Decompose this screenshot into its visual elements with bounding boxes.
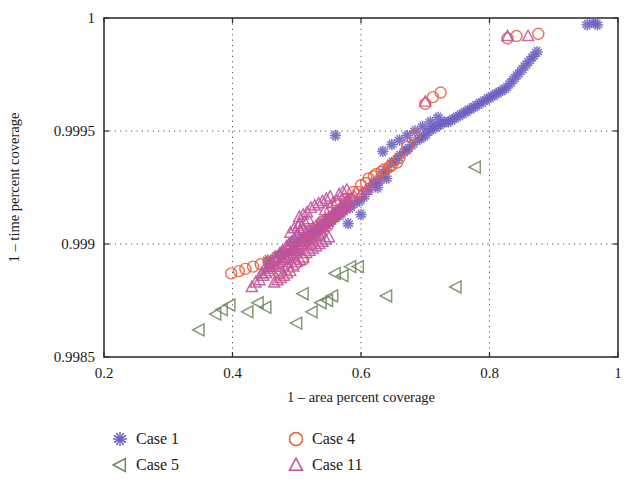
legend-marker-triangle-up-icon (290, 458, 303, 470)
y-tick-label: 0.9985 (54, 349, 95, 365)
scatter-plot-canvas: 0.20.40.60.810.99850.9990.99951 1 – area… (0, 0, 635, 485)
data-point (330, 130, 341, 141)
data-point (523, 30, 534, 40)
y-tick-label: 0.9995 (54, 123, 95, 139)
data-point (342, 218, 353, 229)
legend-marker-circle-icon (290, 433, 303, 446)
y-tick-label: 0.999 (61, 236, 95, 252)
legend-marker-asterisk-icon (113, 432, 127, 446)
legend-label: Case 4 (312, 430, 355, 447)
scatter-plot-figure: 0.20.40.60.810.99850.9990.99951 1 – area… (0, 0, 635, 485)
x-tick-label: 0.6 (352, 365, 371, 381)
y-tick-label: 1 (88, 10, 96, 26)
data-point (337, 270, 348, 282)
series-case-5 (193, 161, 481, 336)
legend-item-case-4[interactable]: Case 4 (290, 430, 356, 447)
data-points-layer (193, 17, 603, 336)
data-point (193, 324, 204, 336)
data-point (248, 261, 259, 272)
data-point (329, 267, 340, 279)
data-point (469, 161, 480, 173)
legend-item-case-5[interactable]: Case 5 (113, 456, 179, 473)
data-point (290, 317, 301, 329)
data-point (377, 146, 388, 157)
data-point (533, 28, 544, 39)
data-point (242, 306, 253, 318)
x-tick-label: 1 (614, 365, 622, 381)
data-point (297, 288, 308, 300)
legend-item-case-1[interactable]: Case 1 (113, 430, 179, 447)
legend-item-case-11[interactable]: Case 11 (290, 456, 363, 473)
x-tick-label: 0.8 (480, 365, 499, 381)
x-tick-label: 0.2 (95, 365, 114, 381)
legend-label: Case 1 (136, 430, 179, 447)
data-point (226, 268, 237, 279)
legend-label: Case 11 (312, 456, 363, 473)
chart-legend: Case 1Case 4Case 5Case 11 (113, 430, 363, 473)
x-axis-title: 1 – area percent coverage (287, 389, 435, 405)
legend-marker-triangle-left-icon (113, 459, 125, 472)
data-point (233, 266, 244, 277)
data-point (450, 281, 461, 293)
y-axis-title: 1 – time percent coverage (6, 113, 22, 263)
x-tick-label: 0.4 (223, 365, 242, 381)
data-point (240, 263, 251, 274)
data-point (306, 306, 317, 318)
legend-label: Case 5 (136, 456, 179, 473)
data-point (380, 290, 391, 302)
data-point (355, 209, 366, 220)
